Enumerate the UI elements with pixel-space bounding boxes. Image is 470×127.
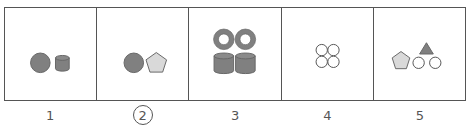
dark-ring-icon — [235, 29, 256, 50]
label-4[interactable]: 4 — [281, 104, 373, 126]
dark-circle-icon — [31, 53, 51, 73]
empty-circle-icon — [327, 56, 338, 67]
figure-strip — [4, 7, 466, 101]
dark-circle-icon — [124, 53, 144, 73]
light-pentagon-icon — [392, 52, 410, 69]
panel-3-shapes — [189, 8, 280, 100]
panel-1-shapes — [5, 8, 96, 100]
empty-circle-icon — [316, 56, 327, 67]
label-2-selected[interactable]: 2 — [96, 104, 188, 126]
panel-1[interactable] — [5, 8, 97, 100]
empty-circle-icon — [316, 44, 327, 55]
empty-circle-icon — [429, 57, 440, 68]
label-number-circled: 2 — [133, 105, 153, 125]
dark-ring-icon — [214, 29, 235, 50]
panel-4-shapes — [282, 8, 373, 100]
panel-5-shapes — [374, 8, 465, 100]
label-number: 1 — [40, 105, 60, 125]
label-3[interactable]: 3 — [189, 104, 281, 126]
light-pentagon-icon — [146, 53, 167, 73]
label-number: 3 — [225, 105, 245, 125]
panel-2[interactable] — [97, 8, 189, 100]
empty-circle-icon — [327, 44, 338, 55]
dark-triangle-icon — [419, 43, 433, 54]
dark-cylinder-icon — [55, 55, 69, 71]
dark-cylinder-icon — [214, 53, 234, 74]
label-5[interactable]: 5 — [374, 104, 466, 126]
panel-4[interactable] — [282, 8, 374, 100]
dark-cylinder-icon — [236, 53, 256, 74]
empty-circle-icon — [413, 57, 424, 68]
panel-5[interactable] — [374, 8, 465, 100]
panel-labels: 1 2 3 4 5 — [4, 104, 466, 126]
label-1[interactable]: 1 — [4, 104, 96, 126]
label-number: 4 — [317, 105, 337, 125]
panel-2-shapes — [97, 8, 188, 100]
label-number: 5 — [410, 105, 430, 125]
panel-3[interactable] — [189, 8, 281, 100]
